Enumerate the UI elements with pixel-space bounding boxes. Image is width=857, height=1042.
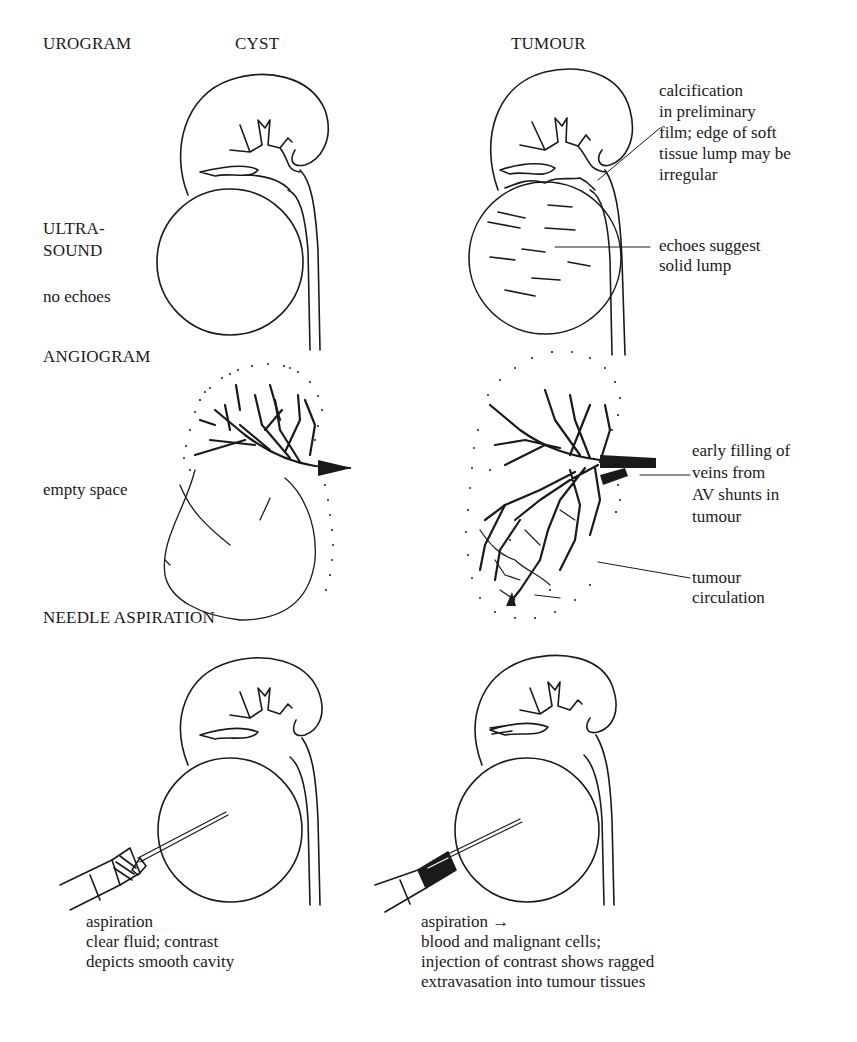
ultrasound-tumour-note: echoes suggest solid lump xyxy=(659,236,761,276)
cyst-angiogram-drawing xyxy=(164,363,352,620)
aspiration-tumour-note-head: aspiration → xyxy=(421,912,509,932)
ultrasound-cyst-note: no echoes xyxy=(43,287,111,307)
urogram-tumour-note: calcification in preliminary film; edge … xyxy=(659,80,791,185)
row-title-needle-aspiration: NEEDLE ASPIRATION xyxy=(43,608,215,628)
aspiration-tumour-note: blood and malignant cells; injection of … xyxy=(421,932,654,992)
cyst-angiogram-stipple xyxy=(183,363,334,591)
row-title-angiogram: ANGIOGRAM xyxy=(43,347,151,367)
tumour-urogram-kidney-drawing xyxy=(491,69,633,355)
aspiration-cyst-note: aspiration clear fluid; contrast depicts… xyxy=(86,912,234,972)
cyst-urogram-kidney-drawing xyxy=(181,75,329,350)
row-title-urogram: UROGRAM xyxy=(43,34,131,54)
tumour-ultrasound-lump xyxy=(469,128,660,334)
column-header-cyst: CYST xyxy=(235,34,279,54)
column-header-tumour: TUMOUR xyxy=(511,34,586,54)
tumour-aspiration-drawing xyxy=(375,656,616,912)
row-title-ultrasound: ULTRA- SOUND xyxy=(43,218,105,262)
angiogram-cyst-note: empty space xyxy=(43,480,128,500)
angiogram-tumour-circulation-note: tumour circulation xyxy=(692,568,765,608)
cyst-ultrasound-circle xyxy=(157,189,303,335)
cyst-aspiration-drawing xyxy=(60,658,322,910)
tumour-angiogram-drawing xyxy=(465,351,690,619)
arrow-right-icon: → xyxy=(492,912,509,931)
angiogram-tumour-shunts-note: early filling of veins from AV shunts in… xyxy=(692,440,790,528)
aspiration-tumour-head-text: aspiration xyxy=(421,912,488,931)
